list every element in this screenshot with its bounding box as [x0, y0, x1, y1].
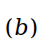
open-parenthesis: (	[5, 17, 14, 39]
close-parenthesis: )	[30, 17, 39, 39]
subfigure-letter: b	[13, 17, 29, 39]
subfigure-label: ( b )	[0, 0, 43, 56]
